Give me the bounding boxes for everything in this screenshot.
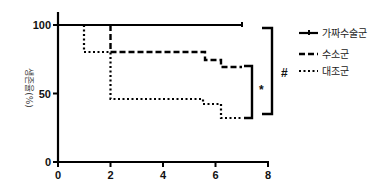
x-tick-8: 8 — [265, 169, 271, 181]
x-tick-0: 0 — [55, 169, 61, 181]
y-tick-50: 50 — [39, 88, 51, 100]
x-axis: 0 2 4 6 8 — [55, 162, 271, 181]
sig-star: * — [259, 83, 264, 97]
legend-item-control: 대조군 — [299, 66, 349, 77]
bracket-star: * — [244, 66, 264, 118]
x-tick-4: 4 — [160, 169, 167, 181]
sig-hash: # — [281, 66, 288, 80]
series-sham-solid — [58, 22, 242, 27]
legend-label-sham: 가짜수술군 — [322, 28, 367, 39]
legend-label-hydrogen: 수소군 — [322, 49, 349, 60]
x-tick-6: 6 — [212, 169, 218, 181]
y-axis: 100 50 0 생존율(%) — [24, 12, 58, 168]
series-control-dotted — [84, 25, 242, 118]
survival-chart: 100 50 0 생존율(%) 0 2 4 6 8 * # — [0, 0, 380, 196]
legend-label-control: 대조군 — [322, 66, 349, 77]
x-tick-2: 2 — [107, 169, 113, 181]
bracket-hash: # — [262, 28, 288, 114]
y-tick-100: 100 — [33, 19, 51, 31]
y-tick-0: 0 — [45, 156, 51, 168]
series-hydrogen-dashed — [111, 25, 243, 67]
legend-item-hydrogen: 수소군 — [299, 49, 349, 60]
legend-item-sham: 가짜수술군 — [299, 28, 367, 39]
y-axis-label: 생존율(%) — [24, 68, 34, 108]
legend: 가짜수술군 수소군 대조군 — [299, 28, 367, 77]
